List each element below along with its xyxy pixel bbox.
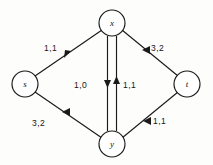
node-x-label: x [109, 18, 114, 28]
edge-x-y: 1,0 [74, 36, 111, 131]
edge-s-x-arrowhead [64, 50, 71, 58]
node-s-label: s [23, 79, 27, 89]
edge-x-t-label: 3,2 [151, 43, 164, 53]
edge-y-x: 1,1 [113, 36, 136, 131]
edge-x-y-arrowhead [104, 80, 111, 88]
edge-x-t: 3,2 [122, 30, 178, 76]
edge-y-t-line [122, 92, 178, 138]
node-s: s [12, 71, 38, 97]
node-x: x [99, 10, 125, 36]
edge-s-y-arrowhead [62, 108, 70, 116]
node-t: t [174, 71, 200, 97]
edge-s-x: 1,1 [35, 30, 102, 76]
edge-s-y-label: 3,2 [32, 118, 45, 128]
edge-s-y: 3,2 [32, 92, 102, 138]
node-y: y [99, 131, 125, 157]
edge-y-x-label: 1,1 [123, 80, 136, 90]
node-y-label: y [109, 139, 114, 149]
edge-y-t-label: 1,1 [153, 116, 166, 126]
edge-s-x-label: 1,1 [44, 43, 57, 53]
edge-x-y-label: 1,0 [74, 80, 87, 90]
flow-network-figure: 1,1 3,2 3,2 1,1 1,0 1,1 s x [0, 0, 213, 165]
edge-y-x-arrowhead [113, 76, 120, 84]
edge-y-t: 1,1 [122, 92, 178, 138]
